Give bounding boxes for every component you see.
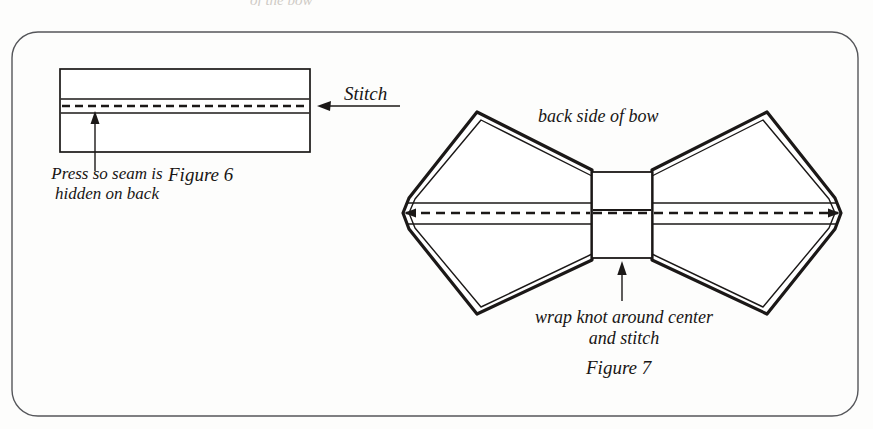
scanned-page: of the bow (0, 0, 873, 429)
stitch-label: Stitch (344, 83, 387, 105)
figure-illustration-canvas (0, 0, 873, 429)
back-side-of-bow-label: back side of bow (538, 106, 658, 127)
wrap-knot-instruction-label: wrap knot around center and stitch (524, 307, 724, 349)
figure6-caption: Figure 6 (168, 164, 233, 186)
knot-arrow-icon (617, 261, 626, 301)
figure7-caption: Figure 7 (586, 357, 651, 379)
figure7-group (403, 112, 841, 314)
bow-knot-rect (592, 172, 652, 258)
press-instruction-label: Press so seam is hidden on back (47, 164, 167, 204)
fabric-strip-rect (60, 69, 310, 152)
